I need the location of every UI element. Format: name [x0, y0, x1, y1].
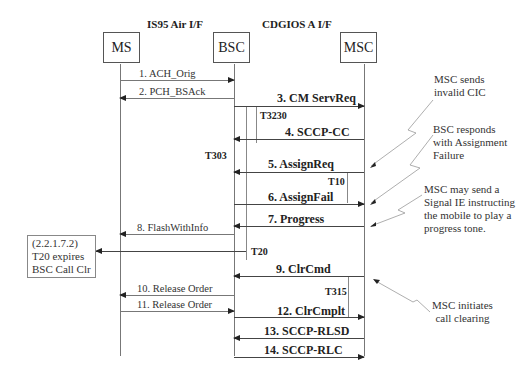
message-10-label: 10. Release Order [137, 283, 213, 294]
note-signal-ie: MSC may send a Signal IE instructing the… [424, 183, 515, 235]
message-11-label: 11. Release Order [137, 299, 212, 310]
message-10-arrow [120, 295, 234, 296]
ms-lifeline [120, 64, 121, 356]
timer-t20: T20 [251, 246, 268, 257]
timer-t315: T315 [325, 286, 347, 297]
t315-bar [348, 276, 349, 318]
message-5-arrow [234, 172, 364, 173]
message-7-label: 7. Progress [268, 212, 324, 227]
timer-t3230: T3230 [260, 110, 287, 121]
message-6-label: 6. AssignFail [268, 190, 333, 205]
message-14-label: 14. SCCP-RLC [264, 343, 343, 358]
t20-expiry-arrow [96, 251, 246, 252]
message-2-label: 2. PCH_BSAck [139, 86, 206, 97]
entity-bsc: BSC [213, 32, 250, 63]
note-call-clearing: MSC initiates call clearing [432, 299, 493, 325]
message-8-label: 8. FlashWithInfo [137, 222, 208, 233]
message-6-arrow [234, 204, 364, 205]
message-12-arrow [234, 317, 364, 318]
timer-t10: T10 [328, 176, 345, 187]
t20-expiry-note: (2.2.1.7.2) T20 expires BSC Call Clr [27, 235, 96, 278]
message-9-arrow [234, 276, 364, 277]
t10-bar [347, 172, 348, 203]
t20-bar [246, 204, 247, 260]
message-7-arrow [234, 226, 364, 227]
message-1-arrow [120, 80, 234, 81]
message-13-arrow [234, 338, 364, 339]
message-2-arrow [120, 98, 234, 99]
message-5-label: 5. AssignReq [268, 157, 334, 172]
timer-t303: T303 [205, 150, 227, 161]
note-assignment-failure: BSC responds with Assignment Failure [433, 123, 507, 162]
message-13-label: 13. SCCP-RLSD [264, 324, 349, 339]
message-8-arrow [120, 234, 234, 235]
note-invalid-cic: MSC sends invalid CIC [434, 73, 486, 99]
air-interface-header: IS95 Air I/F [147, 18, 203, 30]
a-interface-header: CDGIOS A I/F [262, 18, 332, 30]
message-1-label: 1. ACH_Orig [139, 68, 196, 79]
message-4-arrow [234, 139, 364, 140]
message-11-arrow [120, 311, 234, 312]
entity-msc: MSC [340, 32, 377, 63]
message-9-label: 9. ClrCmd [276, 262, 331, 277]
t3230-bar [256, 106, 257, 143]
message-14-arrow [234, 357, 364, 358]
entity-ms: MS [103, 32, 140, 63]
message-3-arrow [234, 106, 364, 107]
message-4-label: 4. SCCP-CC [285, 125, 350, 140]
message-3-label: 3. CM ServReq [277, 91, 356, 106]
